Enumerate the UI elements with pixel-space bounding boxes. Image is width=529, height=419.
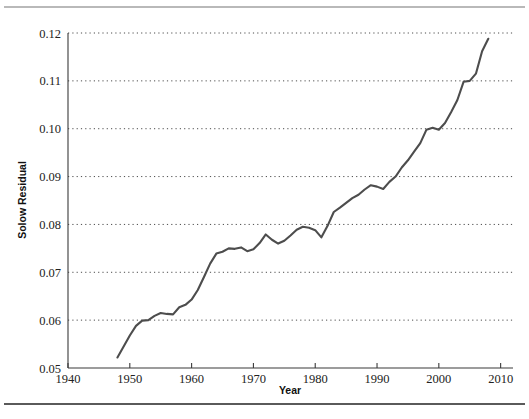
x-tick-label-1980: 1980 (303, 372, 328, 386)
y-tick-label-0.10: 0.10 (39, 122, 61, 136)
gridlines (68, 33, 513, 320)
y-axis-title: Solow Residual (16, 161, 28, 239)
y-axis-ticks: 0.050.060.070.080.090.100.110.12 (39, 27, 61, 376)
solow-residual-line-chart: 0.050.060.070.080.090.100.110.12 1940195… (0, 0, 529, 419)
x-tick-label-2010: 2010 (488, 372, 513, 386)
y-tick-label-0.09: 0.09 (39, 170, 61, 184)
y-tick-label-0.11: 0.11 (40, 74, 61, 88)
x-tick-label-1990: 1990 (365, 372, 390, 386)
y-tick-label-0.08: 0.08 (39, 218, 61, 232)
x-axis-ticks: 19401950196019701980199020002010 (56, 363, 514, 386)
x-tick-label-1940: 1940 (56, 372, 81, 386)
figure-container: 0.050.060.070.080.090.100.110.12 1940195… (0, 0, 529, 419)
series-line-solow-residual (117, 39, 488, 358)
x-tick-label-1950: 1950 (117, 372, 142, 386)
x-tick-label-1970: 1970 (241, 372, 266, 386)
y-tick-label-0.12: 0.12 (39, 27, 61, 41)
x-tick-label-2000: 2000 (426, 372, 451, 386)
y-tick-label-0.06: 0.06 (39, 314, 61, 328)
y-tick-label-0.07: 0.07 (39, 266, 61, 280)
x-axis-title: Year (279, 384, 301, 396)
x-tick-label-1960: 1960 (179, 372, 204, 386)
